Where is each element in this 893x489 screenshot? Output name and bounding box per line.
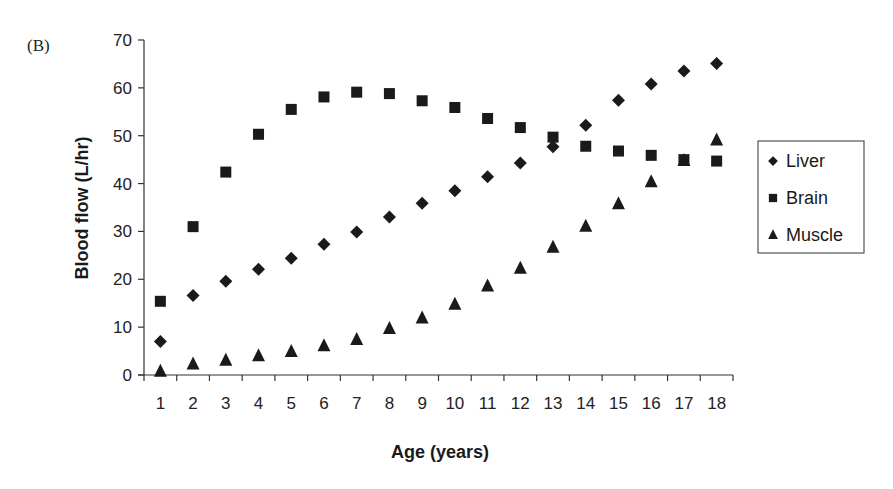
x-tick-label: 17	[674, 394, 693, 413]
legend-label: Liver	[786, 151, 825, 171]
diamond-marker-icon	[448, 184, 461, 197]
diamond-marker-icon	[350, 225, 363, 238]
y-tick-label: 70	[113, 31, 132, 50]
square-marker-icon	[384, 88, 395, 99]
x-tick-label: 12	[511, 394, 530, 413]
triangle-marker-icon	[547, 240, 560, 253]
x-tick-label: 14	[576, 394, 595, 413]
triangle-marker-icon	[710, 133, 723, 146]
diamond-marker-icon	[285, 252, 298, 265]
square-marker-icon	[711, 156, 722, 167]
x-axis: 123456789101112131415161718	[138, 375, 733, 413]
square-marker-icon	[188, 221, 199, 232]
x-tick-label: 11	[479, 394, 497, 413]
square-marker-icon	[548, 132, 559, 143]
x-tick-label: 3	[221, 394, 230, 413]
triangle-marker-icon	[154, 364, 167, 377]
series-muscle	[154, 133, 723, 377]
square-marker-icon	[417, 95, 428, 106]
square-marker-icon	[351, 87, 362, 98]
scatter-chart: 010203040506070 123456789101112131415161…	[0, 0, 893, 489]
y-axis-title: Blood flow (L/hr)	[72, 137, 92, 280]
y-tick-label: 20	[113, 270, 132, 289]
square-marker-icon	[286, 104, 297, 115]
x-tick-label: 18	[707, 394, 726, 413]
diamond-marker-icon	[677, 65, 690, 78]
x-tick-label: 7	[352, 394, 361, 413]
x-axis-title: Age (years)	[391, 442, 489, 462]
series-liver	[154, 57, 723, 348]
y-tick-label: 10	[113, 318, 132, 337]
diamond-marker-icon	[514, 156, 527, 169]
diamond-marker-icon	[481, 170, 494, 183]
x-tick-label: 15	[609, 394, 628, 413]
legend: LiverBrainMuscle	[758, 141, 864, 253]
x-tick-label: 13	[544, 394, 563, 413]
x-tick-label: 5	[287, 394, 296, 413]
square-marker-icon	[220, 167, 231, 178]
diamond-marker-icon	[252, 263, 265, 276]
y-tick-label: 60	[113, 79, 132, 98]
x-tick-label: 16	[642, 394, 661, 413]
triangle-marker-icon	[579, 219, 592, 232]
triangle-marker-icon	[252, 348, 265, 361]
diamond-marker-icon	[383, 211, 396, 224]
triangle-marker-icon	[481, 278, 494, 291]
square-marker-icon	[646, 150, 657, 161]
triangle-marker-icon	[416, 311, 429, 324]
series-brain	[155, 87, 722, 307]
square-marker-icon	[515, 122, 526, 133]
diamond-marker-icon	[579, 119, 592, 132]
square-marker-icon	[318, 91, 329, 102]
triangle-marker-icon	[383, 321, 396, 334]
triangle-marker-icon	[285, 344, 298, 357]
triangle-marker-icon	[645, 174, 658, 187]
y-tick-label: 50	[113, 127, 132, 146]
data-points	[154, 57, 723, 377]
square-marker-icon	[253, 129, 264, 140]
x-tick-label: 8	[385, 394, 394, 413]
diamond-marker-icon	[154, 335, 167, 348]
diamond-marker-icon	[219, 275, 232, 288]
triangle-marker-icon	[317, 338, 330, 351]
triangle-marker-icon	[514, 261, 527, 274]
square-marker-icon	[482, 113, 493, 124]
y-axis: 010203040506070	[113, 31, 144, 385]
triangle-marker-icon	[350, 332, 363, 345]
square-marker-icon	[613, 146, 624, 157]
x-tick-label: 9	[417, 394, 426, 413]
square-marker-icon	[155, 296, 166, 307]
triangle-marker-icon	[612, 196, 625, 209]
x-tick-label: 1	[156, 394, 165, 413]
y-tick-label: 40	[113, 175, 132, 194]
diamond-marker-icon	[187, 289, 200, 302]
legend-label: Muscle	[786, 225, 843, 245]
x-tick-label: 2	[188, 394, 197, 413]
x-tick-label: 10	[445, 394, 464, 413]
y-tick-label: 30	[113, 222, 132, 241]
triangle-marker-icon	[219, 353, 232, 366]
square-marker-icon	[769, 194, 777, 202]
diamond-marker-icon	[645, 78, 658, 91]
diamond-marker-icon	[612, 94, 625, 107]
square-marker-icon	[580, 141, 591, 152]
diamond-marker-icon	[416, 197, 429, 210]
triangle-marker-icon	[448, 297, 461, 310]
diamond-marker-icon	[317, 238, 330, 251]
square-marker-icon	[449, 102, 460, 113]
x-tick-label: 6	[319, 394, 328, 413]
x-tick-label: 4	[254, 394, 263, 413]
triangle-marker-icon	[187, 356, 200, 369]
legend-label: Brain	[786, 188, 828, 208]
diamond-marker-icon	[710, 57, 723, 70]
y-tick-label: 0	[123, 366, 132, 385]
